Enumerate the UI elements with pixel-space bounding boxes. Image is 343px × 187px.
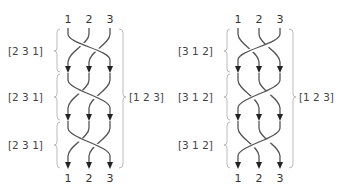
right-stage-3-label: [3 1 2]	[178, 139, 213, 151]
arrow-down-icon	[235, 114, 241, 121]
right-stage-1-label: [3 1 2]	[178, 45, 213, 57]
right-total-brace	[289, 29, 296, 168]
arrow-down-icon	[256, 66, 262, 73]
right-bottom-label-3: 3	[277, 172, 284, 185]
arrow-down-icon	[86, 162, 92, 169]
left-stage-1-brace	[54, 29, 60, 72]
left-bottom-label-1: 1	[65, 172, 72, 185]
right-stage-2-label: [3 1 2]	[178, 91, 213, 103]
arrow-down-icon	[86, 114, 92, 121]
arrow-down-icon	[86, 66, 92, 73]
right-stage-3-strands	[235, 121, 283, 169]
right-bottom-label-2: 2	[256, 172, 263, 185]
left-stage-1-strands	[65, 28, 113, 73]
right-top-label-1: 1	[235, 13, 242, 26]
arrow-down-icon	[107, 162, 113, 169]
right-total-label: [1 2 3]	[299, 91, 334, 103]
left-stage-1-label: [2 3 1]	[8, 45, 43, 57]
arrow-down-icon	[65, 66, 71, 73]
left-total-brace	[119, 29, 126, 168]
right-stage-1-strands	[235, 28, 283, 73]
right-stage-3-brace	[224, 122, 230, 168]
arrow-down-icon	[107, 66, 113, 73]
right-top-label-2: 2	[256, 13, 263, 26]
left-top-label-1: 1	[65, 13, 72, 26]
left-stage-3-label: [2 3 1]	[8, 139, 43, 151]
arrow-down-icon	[107, 114, 113, 121]
arrow-down-icon	[277, 114, 283, 121]
arrow-down-icon	[256, 114, 262, 121]
left-top-label-3: 3	[107, 13, 114, 26]
left-stage-2-strands	[65, 73, 113, 121]
arrow-down-icon	[256, 162, 262, 169]
left-braid-diagram: 1 2 3	[8, 13, 164, 185]
left-bottom-label-3: 3	[107, 172, 114, 185]
left-stage-3-strands	[65, 121, 113, 169]
arrow-down-icon	[277, 66, 283, 73]
left-top-label-2: 2	[86, 13, 93, 26]
arrow-down-icon	[65, 114, 71, 121]
arrow-down-icon	[277, 162, 283, 169]
left-bottom-label-2: 2	[86, 172, 93, 185]
arrow-down-icon	[235, 66, 241, 73]
left-stage-2-label: [2 3 1]	[8, 91, 43, 103]
right-stage-2-strands	[235, 73, 283, 121]
right-braid-diagram: 1 2 3	[178, 13, 334, 185]
left-stage-3-brace	[54, 122, 60, 168]
arrow-down-icon	[235, 162, 241, 169]
right-stage-1-brace	[224, 29, 230, 72]
left-stage-2-brace	[54, 74, 60, 120]
arrow-down-icon	[65, 162, 71, 169]
braid-diagrams-canvas: 1 2 3	[0, 0, 343, 187]
left-total-label: [1 2 3]	[129, 91, 164, 103]
right-bottom-label-1: 1	[235, 172, 242, 185]
right-top-label-3: 3	[277, 13, 284, 26]
right-stage-2-brace	[224, 74, 230, 120]
